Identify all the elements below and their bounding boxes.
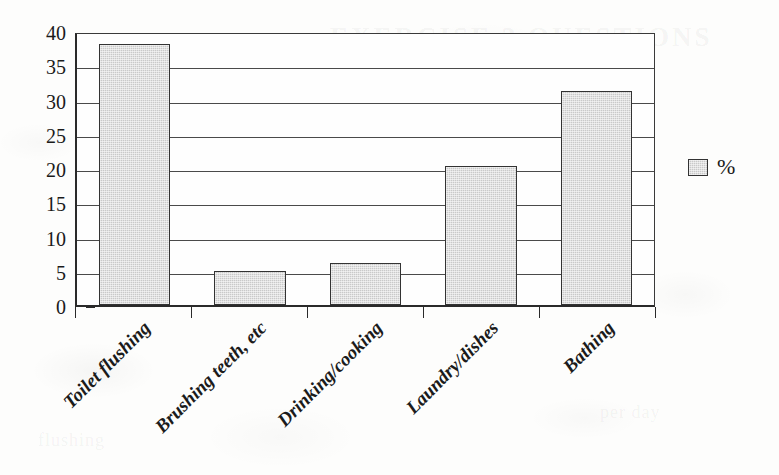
y-tick-label: 0 bbox=[56, 297, 66, 317]
x-tick-mark bbox=[423, 307, 424, 318]
bar bbox=[561, 91, 633, 305]
y-tick-label: 15 bbox=[46, 194, 66, 214]
x-tick-mark bbox=[75, 307, 76, 318]
x-axis-label: Brushing teeth, etc bbox=[151, 318, 269, 436]
y-axis: 0510152025303540 bbox=[18, 33, 66, 307]
bleed-through-text-bottom-left: flushing bbox=[38, 430, 105, 451]
x-tick-mark bbox=[307, 307, 308, 318]
bar-slot bbox=[192, 34, 307, 305]
x-tick-mark bbox=[655, 307, 656, 318]
plot-area bbox=[75, 33, 655, 307]
bar-series bbox=[77, 34, 654, 305]
bar-slot bbox=[77, 34, 192, 305]
bar bbox=[445, 166, 517, 305]
x-axis-label: Drinking/cooking bbox=[274, 318, 386, 430]
x-axis-label: Bathing bbox=[559, 318, 617, 376]
bar bbox=[214, 271, 286, 305]
y-tick-label: 10 bbox=[46, 228, 66, 248]
y-tick-label: 40 bbox=[46, 23, 66, 43]
y-tick-label: 35 bbox=[46, 57, 66, 77]
x-tick-mark bbox=[191, 307, 192, 318]
bar-slot bbox=[308, 34, 423, 305]
y-tick-label: 25 bbox=[46, 125, 66, 145]
y-tick-mark bbox=[86, 307, 95, 308]
bar-slot bbox=[423, 34, 538, 305]
legend-label-percent: % bbox=[717, 156, 735, 178]
bleed-through-text-bottom-right: per day bbox=[600, 402, 660, 423]
x-axis-label: Laundry/dishes bbox=[402, 318, 501, 417]
y-tick-label: 30 bbox=[46, 91, 66, 111]
bar-slot bbox=[539, 34, 654, 305]
x-tick-mark bbox=[539, 307, 540, 318]
legend-swatch-percent bbox=[688, 159, 708, 176]
legend: % bbox=[688, 156, 735, 178]
y-tick-label: 20 bbox=[46, 160, 66, 180]
bar bbox=[330, 263, 402, 305]
x-axis-label: Toilet flushing bbox=[60, 318, 154, 412]
y-tick-label: 5 bbox=[56, 262, 66, 282]
bar bbox=[99, 44, 171, 305]
chart-page: EXERCISE 2 QUESTIONS water household flu… bbox=[0, 0, 779, 475]
